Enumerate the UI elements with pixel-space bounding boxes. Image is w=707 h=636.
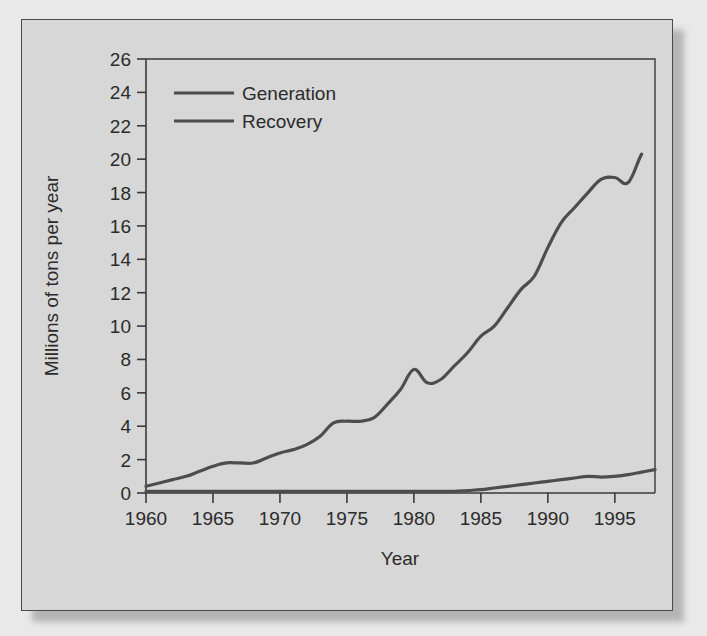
- x-tick-group: 19601965197019751980198519901995: [125, 493, 636, 529]
- x-axis-title: Year: [381, 548, 420, 569]
- y-tick-label: 16: [110, 216, 131, 237]
- y-tick-label: 10: [110, 316, 131, 337]
- figure-root: 02468101214161820222426 1960196519701975…: [0, 0, 707, 636]
- y-tick-label: 2: [120, 450, 131, 471]
- x-tick-label: 1985: [460, 508, 502, 529]
- y-tick-label: 6: [120, 383, 131, 404]
- x-tick-label: 1995: [594, 508, 636, 529]
- y-tick-label: 8: [120, 349, 131, 370]
- y-axis-title: Millions of tons per year: [41, 175, 62, 376]
- chart-card: 02468101214161820222426 1960196519701975…: [21, 19, 673, 611]
- plot-frame-top-right: [146, 59, 655, 493]
- chart-legend: Generation Recovery: [174, 83, 336, 132]
- x-tick-label: 1990: [527, 508, 569, 529]
- y-tick-label: 24: [110, 82, 132, 103]
- x-tick-label: 1965: [192, 508, 234, 529]
- y-tick-group: 02468101214161820222426: [110, 49, 146, 504]
- y-tick-label: 14: [110, 249, 132, 270]
- y-tick-label: 18: [110, 183, 131, 204]
- x-tick-label: 1975: [326, 508, 368, 529]
- y-tick-label: 26: [110, 49, 131, 70]
- line-chart: 02468101214161820222426 1960196519701975…: [22, 20, 672, 610]
- y-tick-label: 22: [110, 116, 131, 137]
- series-line-recovery: [146, 470, 655, 492]
- y-tick-label: 20: [110, 149, 131, 170]
- legend-label-generation: Generation: [242, 83, 336, 104]
- y-tick-label: 12: [110, 283, 131, 304]
- x-tick-label: 1970: [259, 508, 301, 529]
- x-tick-label: 1980: [393, 508, 435, 529]
- y-tick-label: 0: [120, 483, 131, 504]
- series-line-generation: [146, 154, 642, 486]
- legend-label-recovery: Recovery: [242, 111, 323, 132]
- y-tick-label: 4: [120, 416, 131, 437]
- x-tick-label: 1960: [125, 508, 167, 529]
